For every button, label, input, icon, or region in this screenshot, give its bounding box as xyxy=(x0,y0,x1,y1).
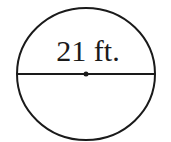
diameter-label: 21 ft. xyxy=(56,34,119,67)
circle-diagram: 21 ft. xyxy=(0,0,171,142)
center-point xyxy=(84,72,89,77)
